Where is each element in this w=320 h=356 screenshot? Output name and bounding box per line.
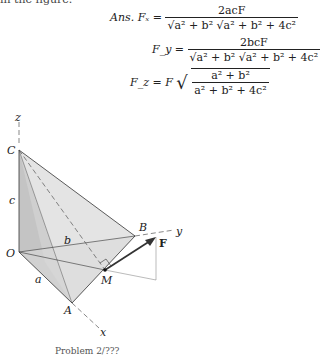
label-y: y — [175, 225, 183, 238]
label-b: b — [64, 234, 71, 247]
label-c: c — [9, 194, 15, 207]
x-axis — [72, 303, 99, 328]
figure-caption: Problem 2/??? — [55, 346, 119, 356]
label-O: O — [6, 247, 15, 260]
label-M: M — [100, 274, 113, 287]
label-C: C — [7, 144, 16, 157]
label-B: B — [138, 221, 147, 234]
label-z: z — [14, 111, 21, 124]
label-x: x — [100, 326, 107, 339]
component-horizontal — [105, 270, 156, 280]
label-A: A — [63, 304, 72, 317]
label-a: a — [35, 273, 42, 286]
label-F: F — [159, 237, 167, 250]
point-M — [103, 268, 107, 272]
arrowhead-icon — [145, 237, 156, 246]
